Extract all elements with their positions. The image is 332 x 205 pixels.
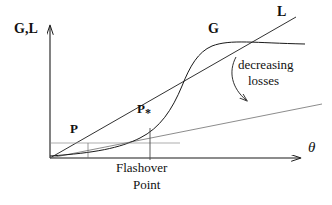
flashover-point-line1: Flashover [116, 161, 167, 174]
x-axis-label: θ [308, 140, 315, 155]
curve-g-label: G [208, 22, 219, 36]
flashover-point-line2: Point [133, 178, 160, 191]
point-p-label: P [70, 122, 78, 135]
thermal-runaway-figure: G,L θ G L P P* decreasing losses Flashov… [0, 0, 332, 205]
loss-line-shallow [50, 104, 322, 158]
y-axis-label: G,L [14, 22, 38, 36]
decreasing-losses-line1: decreasing [238, 58, 294, 71]
curve-l-label: L [277, 5, 286, 19]
decreasing-losses-line2: losses [248, 74, 279, 87]
point-pstar-subscript: * [145, 106, 151, 120]
point-pstar-label: P* [137, 102, 151, 119]
point-pstar-letter: P [137, 101, 145, 116]
